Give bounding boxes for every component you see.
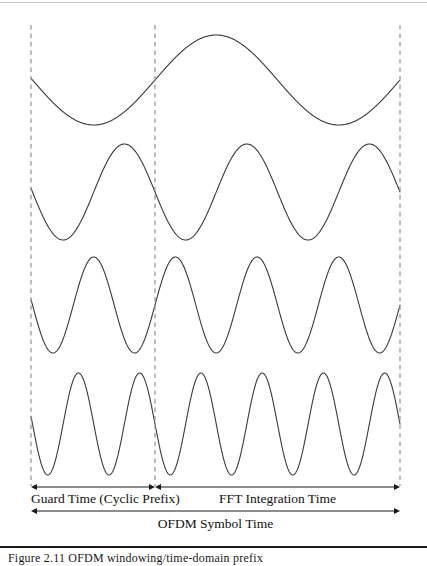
bottom-divider-rule [0,546,427,548]
dashed-boundary-group [31,25,400,486]
ofdm-symbol-time-label: OFDM Symbol Time [31,517,400,531]
waveform-subcarrier-3 [31,257,400,353]
guard-time-label: Guard Time (Cyclic Prefix) [31,492,155,506]
fft-integration-time-label: FFT Integration Time [155,492,400,506]
waveform-subcarrier-1 [31,35,400,125]
waveform-group [31,35,400,475]
figure-caption: Figure 2.11 OFDM windowing/time-domain p… [8,551,263,566]
fft-integration-time-arrow [155,484,400,490]
ofdm-symbol-time-arrow [31,508,400,514]
guard-time-arrow [31,484,155,490]
waveform-subcarrier-2 [31,144,400,240]
waveform-subcarrier-4 [31,373,400,475]
